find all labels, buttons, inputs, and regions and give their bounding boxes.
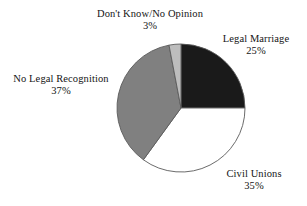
slice-label-name: Civil Unions: [206, 168, 302, 180]
slice-label-value: 35%: [206, 180, 302, 192]
slice-label-name: Don't Know/No Opinion: [88, 8, 212, 20]
slice-label-dont-know-no-opinion: Don't Know/No Opinion 3%: [88, 8, 212, 32]
slice-label-name: No Legal Recognition: [4, 73, 118, 85]
slice-label-civil-unions: Civil Unions 35%: [206, 168, 302, 192]
slice-label-value: 3%: [88, 20, 212, 32]
slice-label-name: Legal Marriage: [208, 33, 304, 45]
slice-label-value: 25%: [208, 45, 304, 57]
slice-label-legal-marriage: Legal Marriage 25%: [208, 33, 304, 57]
slice-label-value: 37%: [4, 85, 118, 97]
slice-label-no-legal-recognition: No Legal Recognition 37%: [4, 73, 118, 97]
pie-chart-figure: Don't Know/No Opinion 3% Legal Marriage …: [0, 0, 307, 206]
